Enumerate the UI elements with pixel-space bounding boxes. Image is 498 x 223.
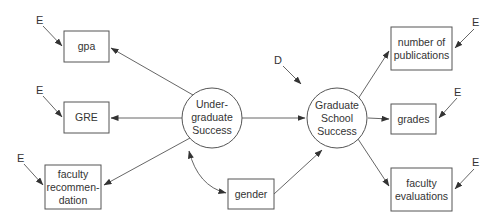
node-faculty-evaluations: faculty evaluations [391, 168, 452, 211]
node-gpa-label: gpa [78, 40, 96, 52]
node-gender-label: gender [235, 188, 268, 200]
edge-gss-faceval [358, 139, 389, 186]
error-arrow-pubs [455, 29, 474, 48]
edge-ugs-gender-covariance [189, 151, 226, 193]
error-arrow-facrec [24, 164, 43, 185]
node-faceval-line1: faculty [406, 177, 437, 189]
node-pubs-line2: publications [394, 49, 449, 61]
node-gpa: gpa [64, 31, 109, 62]
node-facrec-line3: dation [59, 194, 88, 206]
latent-gss-line1: Graduate [315, 99, 359, 111]
disturbance-label-gss: D [274, 54, 282, 66]
latent-ugs-line2: graduate [191, 111, 233, 123]
node-facrec-line1: faculty [58, 168, 89, 180]
edge-ugs-facrec [104, 138, 190, 185]
edge-gss-pubs [358, 51, 389, 99]
error-label-pubs: E [472, 16, 479, 28]
node-gender: gender [228, 179, 274, 209]
node-gre-label: GRE [75, 111, 98, 123]
latent-ugs-line1: Under- [196, 98, 229, 110]
error-label-gre: E [36, 84, 43, 96]
node-facrec-line2: recommen- [46, 181, 100, 193]
disturbance-arrow-gss [283, 66, 301, 84]
edge-ugs-gpa [111, 48, 193, 95]
error-arrow-gpa [43, 26, 62, 46]
error-label-faceval: E [472, 156, 479, 168]
latent-undergraduate-success: Under- graduate Success [182, 88, 242, 148]
node-grades: grades [391, 104, 436, 134]
error-arrow-gre [43, 96, 62, 117]
latent-graduate-school-success: Graduate School Success [307, 88, 367, 148]
error-label-grades: E [454, 86, 461, 98]
error-arrow-grades [439, 98, 457, 118]
latent-gss-line3: Success [317, 125, 357, 137]
sem-diagram: gpa GRE faculty recommen- dation gender … [0, 0, 498, 223]
node-pubs-line1: number of [398, 36, 445, 48]
latent-gss-line2: School [321, 112, 353, 124]
latent-ugs-line3: Success [192, 124, 232, 136]
node-faceval-line2: evaluations [395, 190, 448, 202]
error-arrow-faceval [455, 169, 474, 189]
node-faculty-recommendation: faculty recommen- dation [45, 165, 101, 209]
error-label-gpa: E [36, 14, 43, 26]
node-gre: GRE [64, 102, 109, 133]
edge-gender-gss [274, 150, 322, 194]
node-number-of-publications: number of publications [391, 27, 452, 70]
error-label-facrec: E [17, 152, 24, 164]
node-grades-label: grades [397, 113, 429, 125]
edge-gss-grades [368, 118, 389, 119]
